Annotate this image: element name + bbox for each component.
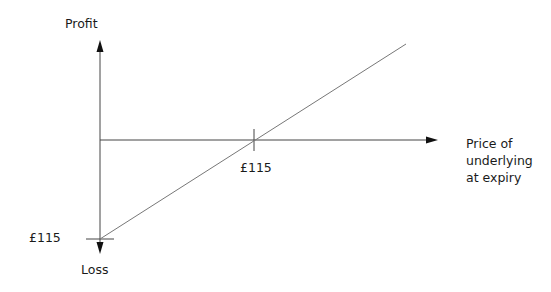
payoff-line [100,44,406,239]
x-axis-label-line2: underlying [466,153,533,169]
loss-label: Loss [81,262,108,278]
x-axis-label-line1: Price of [466,136,513,152]
profit-label: Profit [65,16,98,32]
arrow-up-icon [97,40,104,52]
arrow-right-icon [426,137,438,144]
x-axis-label-line3: at expiry [466,170,521,186]
breakeven-label: £115 [240,160,272,176]
arrow-down-icon [97,242,104,254]
loss-level-label: £115 [29,230,61,246]
